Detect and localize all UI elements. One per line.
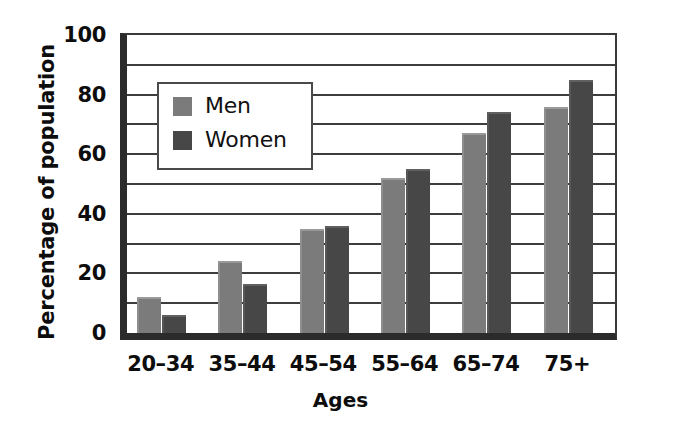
plot-inner xyxy=(127,35,615,333)
bar-top-edge xyxy=(300,229,324,231)
bar-women-35–44 xyxy=(243,284,267,333)
bar-top-edge xyxy=(569,80,593,82)
bar-face xyxy=(381,178,405,333)
legend-item-men: Men xyxy=(173,95,251,117)
bar-top-edge xyxy=(162,315,186,317)
bar-face xyxy=(218,261,242,333)
y-axis-tick-labels: 020406080100 xyxy=(50,0,106,423)
bar-face xyxy=(544,107,568,333)
bar-men-35–44 xyxy=(218,261,242,333)
x-tick-label-35–44: 35–44 xyxy=(201,352,282,376)
chart-legend: Men Women xyxy=(157,82,313,170)
bar-top-edge xyxy=(218,261,242,263)
x-axis-tick-labels: 20–3435–4445–5455–6465–7475+ xyxy=(120,352,617,386)
bar-left-edge xyxy=(218,261,220,333)
bar-top-edge xyxy=(462,133,486,135)
legend-label-men: Men xyxy=(205,95,251,117)
bar-left-edge xyxy=(137,297,139,333)
bar-group xyxy=(371,35,452,333)
bar-left-edge xyxy=(544,107,546,333)
legend-item-women: Women xyxy=(173,129,287,151)
legend-swatch-men-icon xyxy=(173,97,192,116)
bar-men-45–54 xyxy=(300,229,324,333)
bar-men-20–34 xyxy=(137,297,161,333)
x-axis-title: Ages xyxy=(0,388,681,412)
bar-group xyxy=(534,35,615,333)
bar-top-edge xyxy=(487,112,511,114)
bar-left-edge xyxy=(381,178,383,333)
legend-label-women: Women xyxy=(205,129,287,151)
bar-group xyxy=(290,35,371,333)
bar-left-edge xyxy=(406,169,408,333)
bar-top-edge xyxy=(544,107,568,109)
bar-face xyxy=(406,169,430,333)
bar-left-edge xyxy=(462,133,464,333)
x-tick-label-75+: 75+ xyxy=(527,352,608,376)
bar-face xyxy=(137,297,161,333)
bar-left-edge xyxy=(487,112,489,333)
bar-top-edge xyxy=(381,178,405,180)
bar-group xyxy=(127,35,208,333)
x-tick-label-55–64: 55–64 xyxy=(364,352,445,376)
bar-group xyxy=(452,35,533,333)
bar-women-45–54 xyxy=(325,226,349,333)
bar-men-55–64 xyxy=(381,178,405,333)
bar-women-75+ xyxy=(569,80,593,333)
bar-men-75+ xyxy=(544,107,568,333)
x-tick-label-20–34: 20–34 xyxy=(120,352,201,376)
bar-top-edge xyxy=(137,297,161,299)
bar-face xyxy=(162,315,186,333)
bar-top-edge xyxy=(243,284,267,286)
plot-area: Men Women xyxy=(120,33,617,340)
bar-top-edge xyxy=(325,226,349,228)
bar-group xyxy=(208,35,289,333)
bar-face xyxy=(300,229,324,333)
bar-women-20–34 xyxy=(162,315,186,333)
y-tick-label-20: 20 xyxy=(50,261,106,285)
bar-women-65–74 xyxy=(487,112,511,333)
y-tick-label-60: 60 xyxy=(50,142,106,166)
y-tick-label-80: 80 xyxy=(50,83,106,107)
bar-left-edge xyxy=(325,226,327,333)
bar-chart: Percentage of population 020406080100 Me… xyxy=(0,0,681,423)
legend-swatch-women-icon xyxy=(173,131,192,150)
bar-left-edge xyxy=(569,80,571,333)
y-tick-label-40: 40 xyxy=(50,202,106,226)
x-tick-label-45–54: 45–54 xyxy=(283,352,364,376)
x-tick-label-65–74: 65–74 xyxy=(445,352,526,376)
bar-left-edge xyxy=(243,284,245,333)
y-tick-label-100: 100 xyxy=(50,23,106,47)
bar-left-edge xyxy=(300,229,302,333)
bar-face xyxy=(487,112,511,333)
bar-women-55–64 xyxy=(406,169,430,333)
bar-face xyxy=(569,80,593,333)
y-tick-label-0: 0 xyxy=(50,321,106,345)
bar-face xyxy=(325,226,349,333)
bar-left-edge xyxy=(162,315,164,333)
bar-face xyxy=(462,133,486,333)
bar-men-65–74 xyxy=(462,133,486,333)
bar-top-edge xyxy=(406,169,430,171)
bar-face xyxy=(243,284,267,333)
